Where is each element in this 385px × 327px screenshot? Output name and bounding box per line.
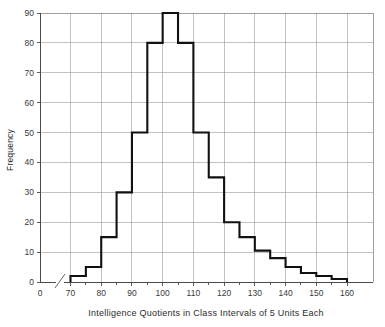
y-tick-label: 10 xyxy=(25,247,35,257)
x-tick-label: 130 xyxy=(248,288,262,298)
x-tick-label: 120 xyxy=(217,288,231,298)
y-tick-label: 30 xyxy=(25,187,35,197)
x-tick-label: 90 xyxy=(127,288,137,298)
y-tick-label: 20 xyxy=(25,217,35,227)
x-tick-label: 70 xyxy=(66,288,76,298)
histogram-chart: 0102030405060708090 07080901001101201301… xyxy=(0,0,385,327)
y-tick-label: 50 xyxy=(25,128,35,138)
histogram-figure: 0102030405060708090 07080901001101201301… xyxy=(0,0,385,327)
x-tick-label: 100 xyxy=(156,288,170,298)
x-tick-label: 140 xyxy=(278,288,292,298)
y-tick-label: 40 xyxy=(25,157,35,167)
y-axis-title: Frequency xyxy=(5,128,15,171)
y-tick-label: 80 xyxy=(25,38,35,48)
y-tick-label: 90 xyxy=(25,8,35,18)
y-tick-label: 60 xyxy=(25,98,35,108)
x-tick-label: 80 xyxy=(96,288,106,298)
y-tick-label: 70 xyxy=(25,68,35,78)
x-tick-label: 150 xyxy=(309,288,323,298)
x-tick-label: 160 xyxy=(340,288,354,298)
y-tick-label: 0 xyxy=(29,277,34,287)
x-axis-title: Intelligence Quotients in Class Interval… xyxy=(88,308,323,318)
x-tick-label: 110 xyxy=(187,288,201,298)
x-tick-label: 0 xyxy=(38,288,43,298)
